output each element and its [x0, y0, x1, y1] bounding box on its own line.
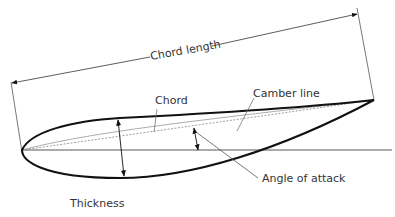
angle-of-attack-label: Angle of attack	[262, 172, 346, 185]
camber-line-label: Camber line	[253, 87, 320, 100]
chord-label: Chord	[155, 94, 188, 107]
thickness-arrow	[118, 120, 124, 176]
chord-length-label: Chord length	[149, 38, 221, 63]
chord-leader-line	[154, 109, 157, 132]
thickness-label: Thickness	[69, 197, 125, 210]
chord-length-extension-right	[357, 8, 374, 100]
chord-length-arrow-left	[12, 57, 150, 83]
chord-length-arrow-right	[212, 14, 357, 46]
airfoil-diagram: Chord length Chord Camber line Angle of …	[0, 0, 395, 217]
airfoil-outline	[22, 100, 374, 178]
chord-length-extension-left	[11, 82, 22, 152]
angle-of-attack-arrow	[194, 128, 198, 150]
